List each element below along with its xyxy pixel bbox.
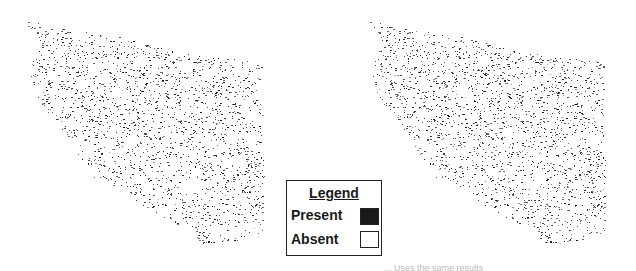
stipple-map-canvas bbox=[342, 0, 636, 260]
figure-caption-cut: ... Uses the same results bbox=[384, 262, 634, 271]
stipple-map-canvas bbox=[0, 0, 300, 260]
presence-map-left bbox=[0, 0, 300, 260]
legend-swatch-absent bbox=[360, 231, 379, 248]
map-legend: Legend Present Absent bbox=[286, 180, 382, 256]
legend-label-absent: Absent bbox=[291, 231, 338, 247]
legend-title: Legend bbox=[287, 185, 381, 201]
presence-map-right bbox=[342, 0, 636, 260]
legend-label-present: Present bbox=[291, 207, 342, 223]
legend-swatch-present bbox=[360, 208, 379, 225]
